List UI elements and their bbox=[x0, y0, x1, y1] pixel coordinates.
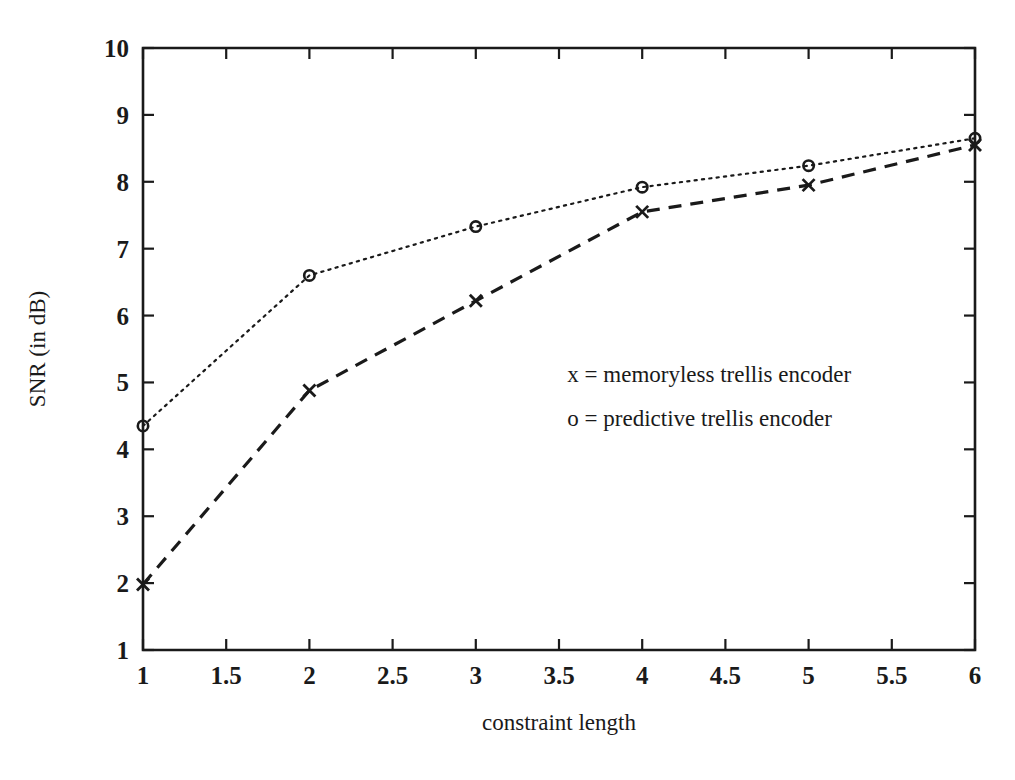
y-axis-title: SNR (in dB) bbox=[25, 291, 50, 407]
legend-annotations: x = memoryless trellis encodero = predic… bbox=[567, 362, 851, 430]
snr-vs-constraint-length-chart: 11.522.533.544.555.56 12345678910 constr… bbox=[0, 0, 1015, 780]
chart-figure: 11.522.533.544.555.56 12345678910 constr… bbox=[0, 0, 1015, 780]
x-tick-label-9: 5.5 bbox=[876, 662, 907, 689]
data-series-layer bbox=[137, 133, 981, 590]
plot-border bbox=[143, 48, 975, 650]
x-tick-label-3: 2.5 bbox=[377, 662, 408, 689]
x-tick-label-6: 4 bbox=[636, 662, 649, 689]
y-tick-label-8: 9 bbox=[117, 102, 130, 129]
y-axis-tick-labels: 12345678910 bbox=[104, 35, 130, 664]
x-tick-label-5: 3.5 bbox=[543, 662, 574, 689]
x-tick-label-1: 1.5 bbox=[211, 662, 242, 689]
y-tick-label-5: 6 bbox=[117, 303, 130, 330]
x-axis-ticks bbox=[143, 48, 975, 650]
y-tick-label-9: 10 bbox=[104, 35, 129, 62]
y-tick-label-1: 2 bbox=[117, 570, 130, 597]
x-axis-title: constraint length bbox=[482, 710, 636, 735]
y-tick-label-4: 5 bbox=[117, 369, 130, 396]
plot-frame bbox=[143, 48, 975, 650]
y-tick-label-7: 8 bbox=[117, 169, 130, 196]
y-tick-label-3: 4 bbox=[117, 436, 130, 463]
x-tick-label-10: 6 bbox=[969, 662, 982, 689]
x-tick-label-8: 5 bbox=[802, 662, 815, 689]
x-axis-tick-labels: 11.522.533.544.555.56 bbox=[137, 662, 982, 689]
legend-predictive: o = predictive trellis encoder bbox=[567, 406, 832, 431]
data-point-x-1 bbox=[303, 384, 315, 396]
x-tick-label-4: 3 bbox=[470, 662, 483, 689]
data-point-x-3 bbox=[636, 206, 648, 218]
x-tick-label-2: 2 bbox=[303, 662, 316, 689]
y-axis-ticks bbox=[143, 48, 975, 650]
data-point-x-2 bbox=[470, 295, 482, 307]
x-tick-label-0: 1 bbox=[137, 662, 150, 689]
y-tick-label-6: 7 bbox=[117, 236, 130, 263]
series-markers-o bbox=[138, 133, 980, 431]
legend-memoryless: x = memoryless trellis encoder bbox=[567, 362, 851, 387]
x-tick-label-7: 4.5 bbox=[710, 662, 741, 689]
y-tick-label-0: 1 bbox=[117, 637, 130, 664]
y-tick-label-2: 3 bbox=[117, 503, 130, 530]
